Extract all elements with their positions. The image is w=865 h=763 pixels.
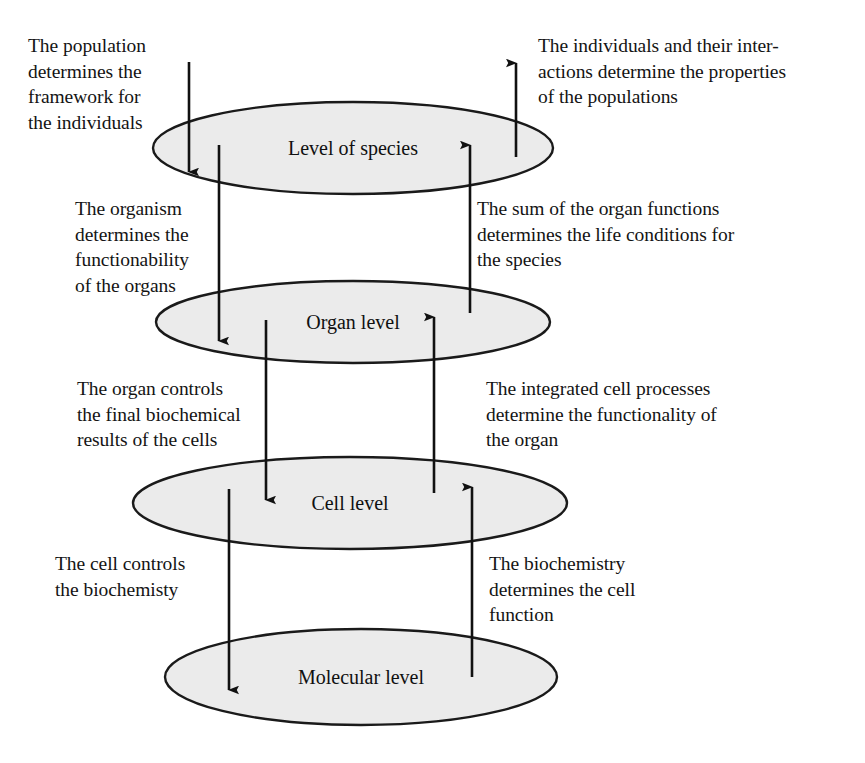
annotation-organism-determines-organs: The organism determines the functionabil…: [75, 196, 290, 298]
annotation-organ-controls-biochemical-results: The organ controls the final biochemical…: [77, 376, 307, 453]
levels-of-organization-diagram: Level of species Organ level Cell level …: [0, 0, 865, 763]
annotation-cell-controls-biochemistry: The cell controls the biochemisty: [55, 551, 270, 602]
level-ellipse-cell: [133, 457, 567, 549]
annotation-individuals-determine-populations: The individuals and their inter- actions…: [538, 33, 848, 110]
annotation-organ-functions-determine-life-conditions: The sum of the organ functions determine…: [477, 196, 807, 273]
annotation-population-determines-framework: The population determines the framework …: [28, 33, 243, 135]
annotation-cell-processes-determine-organ: The integrated cell processes determine …: [486, 376, 786, 453]
annotation-biochemistry-determines-cell-function: The biochemistry determines the cell fun…: [489, 551, 704, 628]
level-ellipse-molecular: [165, 629, 557, 725]
